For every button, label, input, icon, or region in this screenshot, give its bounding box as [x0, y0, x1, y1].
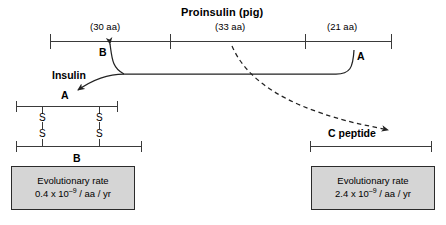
insulin-rate-suffix: / aa / yr — [77, 188, 111, 199]
insulin-derivation-curve — [110, 44, 354, 74]
insulin-evolutionary-rate-box: Evolutionary rate 0.4 x 10–9 / aa / yr — [11, 166, 135, 210]
c-peptide-rate-value: 2.4 x 10–9 / aa / yr — [335, 188, 411, 201]
insulin-a-chain-label: A — [61, 90, 69, 101]
proinsulin-diagram: Proinsulin (pig) (30 aa) (33 aa) (21 aa)… — [0, 0, 446, 225]
c-peptide-bar — [310, 141, 432, 152]
diagram-title: Proinsulin (pig) — [181, 7, 263, 18]
proinsulin-a-label: A — [357, 51, 365, 62]
segment-length-c: (33 aa) — [215, 22, 245, 32]
c-peptide-rate-prefix: 2.4 x 10 — [335, 188, 369, 199]
disulfide-s-bottom-right: S — [96, 129, 103, 139]
insulin-b-chain-bar — [16, 141, 142, 152]
segment-length-a: (21 aa) — [327, 22, 357, 32]
c-peptide-rate-exponent: –9 — [369, 187, 377, 194]
c-peptide-label: C peptide — [328, 128, 376, 139]
disulfide-s-top-left: S — [39, 113, 46, 123]
disulfide-s-top-right: S — [96, 113, 103, 123]
c-peptide-evolutionary-rate-box: Evolutionary rate 2.4 x 10–9 / aa / yr — [311, 166, 435, 210]
insulin-rate-exponent: –9 — [69, 187, 77, 194]
insulin-a-chain-bar — [16, 101, 118, 112]
proinsulin-b-label: B — [99, 47, 107, 58]
disulfide-s-bottom-left: S — [39, 129, 46, 139]
insulin-b-chain-label: B — [73, 153, 81, 164]
insulin-label: Insulin — [52, 70, 86, 81]
insulin-rate-prefix: 0.4 x 10 — [35, 188, 69, 199]
insulin-rate-value: 0.4 x 10–9 / aa / yr — [35, 188, 111, 201]
segment-length-b: (30 aa) — [90, 22, 120, 32]
c-peptide-rate-suffix: / aa / yr — [377, 188, 411, 199]
